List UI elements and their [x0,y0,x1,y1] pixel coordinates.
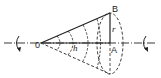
slant-edge-OB [41,13,110,43]
label-radius-r: r [112,24,116,34]
label-point-A: A [111,45,117,55]
label-point-B: B [112,4,118,14]
label-height-h: h [73,43,78,53]
cone-diagram: 0 B A r h [0,0,161,78]
label-apex-O: 0 [35,40,40,50]
